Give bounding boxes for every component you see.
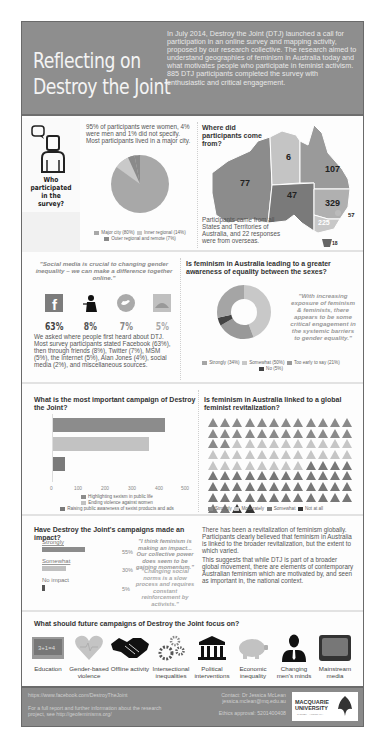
section-campaign-global: What is the most important campaign of D… <box>22 386 363 516</box>
triangle-marker <box>220 439 230 448</box>
television-icon <box>319 635 351 661</box>
triangle-marker <box>293 418 303 427</box>
triangle-marker <box>208 418 218 427</box>
triangle-marker <box>257 418 267 427</box>
triangle-marker <box>330 461 340 470</box>
state-tas-count: 18 <box>332 240 338 246</box>
triangle-marker <box>232 471 242 480</box>
social-text: We asked where people first heard about … <box>34 333 176 368</box>
triangle-marker <box>281 418 291 427</box>
triangle-marker <box>220 418 230 427</box>
triangle-marker <box>208 429 218 438</box>
triangle-marker <box>306 429 316 438</box>
triangle-marker <box>293 482 303 491</box>
impact-text-1: There has been a revitalization of femin… <box>202 526 354 554</box>
campaign-legend: Highlighting sexism in public life Endin… <box>42 494 192 512</box>
triangle-marker <box>257 482 267 491</box>
triangle-marker <box>245 429 255 438</box>
campaign-bar-chart <box>52 414 188 482</box>
triangle-marker <box>330 493 340 502</box>
source-friends: 8% <box>72 294 108 334</box>
focus-items: 3+1=4 Education Gender-based violence Of… <box>28 634 358 682</box>
triangle-marker <box>342 461 352 470</box>
triangle-marker <box>318 482 328 491</box>
triangle-marker <box>232 461 242 470</box>
twitter-icon <box>117 294 135 312</box>
focus-economic: Economic inequality <box>233 634 273 679</box>
triangle-marker <box>342 418 352 427</box>
who-sidebar: Who participated in the survey? <box>22 118 80 252</box>
triangle-marker <box>330 482 340 491</box>
triangle-marker <box>269 461 279 470</box>
location-legend: Major city (80%) Inner regional (14%) Ou… <box>86 230 194 242</box>
social-quote: "Social media is crucial to changing gen… <box>34 260 174 281</box>
focus-title: What should future campaigns of Destroy … <box>34 620 354 628</box>
triangle-marker <box>318 493 328 502</box>
triangle-marker <box>208 482 218 491</box>
triangle-marker <box>232 439 242 448</box>
impact-text-2: This suggests that while DTJ is part of … <box>202 556 354 584</box>
section-social-awareness: "Social media is crucial to changing gen… <box>22 254 363 384</box>
state-vic-count: 225 <box>318 219 330 226</box>
campaign-title: What is the most important campaign of D… <box>34 396 204 412</box>
triangle-marker <box>306 471 316 480</box>
triangle-marker <box>342 471 352 480</box>
impact-bar-no-impact <box>42 585 45 591</box>
triangle-marker <box>245 461 255 470</box>
contact-email[interactable]: jessica.mclean@mq.edu.au <box>202 698 286 704</box>
triangle-marker <box>208 471 218 480</box>
focus-gender-violence: Gender-based violence <box>69 634 109 679</box>
triangle-marker <box>318 471 328 480</box>
macquarie-logo: MACQUARIE UNIVERSITY SYDNEY · AUSTRALIA <box>292 692 358 721</box>
global-title: Is feminism in Australia linked to a glo… <box>204 396 344 412</box>
triangle-marker <box>342 429 352 438</box>
triangle-marker <box>306 461 316 470</box>
triangle-marker <box>281 471 291 480</box>
piggy-bank-icon <box>237 637 269 659</box>
triangle-marker <box>269 439 279 448</box>
facebook-icon: f <box>45 294 63 312</box>
triangle-marker <box>232 418 242 427</box>
report-link[interactable]: For a full report and further informatio… <box>28 705 168 718</box>
triangle-marker <box>232 450 242 459</box>
who-text: 95% of participants were women, 4% were … <box>86 123 194 144</box>
awareness-legend: Strongly (34%) Somewhat (50%) Too early … <box>186 360 356 372</box>
triangle-marker <box>232 493 242 502</box>
svg-text:3+1=4: 3+1=4 <box>38 645 56 651</box>
triangle-marker <box>269 482 279 491</box>
source-icons: f 63% 8% 7% 5% <box>36 294 180 334</box>
gears-icon <box>157 634 185 662</box>
state-qld-count: 107 <box>325 164 340 174</box>
facebook-link[interactable]: https://www.facebook.com/DestroyTheJoint <box>28 692 127 698</box>
triangle-marker <box>281 450 291 459</box>
focus-offline-activity: Offline activity <box>110 634 150 672</box>
triangle-marker <box>257 429 267 438</box>
triangle-marker <box>269 418 279 427</box>
triangle-marker <box>281 439 291 448</box>
state-nsw-count: 329 <box>325 198 340 208</box>
global-triangle-chart <box>208 418 358 514</box>
bar-highlighting-sexism <box>53 418 165 432</box>
person-speech-icon <box>30 124 74 174</box>
msm-icon <box>153 294 171 312</box>
infographic: Reflecting on Destroy the Joint In July … <box>21 21 364 727</box>
parliament-icon <box>197 635 227 661</box>
triangle-marker <box>281 482 291 491</box>
awareness-donut-chart <box>216 284 272 340</box>
triangle-marker <box>330 439 340 448</box>
triangle-marker <box>306 493 316 502</box>
heart-icon <box>74 635 104 661</box>
triangle-marker <box>245 418 255 427</box>
location-pie-chart <box>110 154 170 214</box>
section-focus: What should future campaigns of Destroy … <box>22 614 363 686</box>
triangle-marker <box>220 429 230 438</box>
triangle-marker <box>269 429 279 438</box>
state-act-count: 57 <box>348 212 355 218</box>
page-title: Reflecting on Destroy the Joint <box>33 48 172 100</box>
triangle-marker <box>257 461 267 470</box>
source-msm: 5% <box>144 294 180 334</box>
triangle-marker <box>269 471 279 480</box>
focus-mens-minds: Changing men's minds <box>274 634 314 679</box>
triangle-marker <box>293 439 303 448</box>
source-twitter: 7% <box>108 294 144 334</box>
